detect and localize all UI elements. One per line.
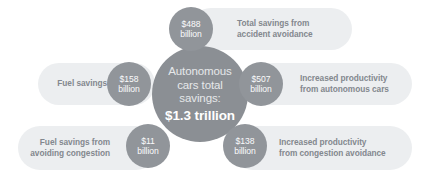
- node-amount-fuel-savings: $158: [120, 74, 139, 84]
- node-amount-congestion-productivity: $138: [236, 136, 255, 146]
- node-fuel-savings: $158 billion: [107, 62, 151, 106]
- autonomous-cars-savings-infographic: Total savings from accident avoidance $4…: [0, 0, 421, 185]
- node-amount-autonomous-productivity: $507: [252, 74, 271, 84]
- node-unit-autonomous-productivity: billion: [250, 84, 272, 94]
- node-accident-avoidance: $488 billion: [169, 7, 213, 51]
- label-congestion-fuel-savings: Fuel savings from avoiding congestion: [30, 137, 110, 159]
- hub-total-value: $1.3 trillion: [165, 108, 235, 123]
- node-unit-congestion-productivity: billion: [234, 146, 256, 156]
- label-autonomous-productivity: Increased productivity from autonomous c…: [300, 73, 389, 95]
- node-amount-accident-avoidance: $488: [182, 19, 201, 29]
- label-fuel-savings: Fuel savings: [57, 78, 107, 89]
- node-amount-congestion-fuel-savings: $11: [141, 136, 155, 146]
- node-congestion-fuel-savings: $11 billion: [126, 124, 170, 168]
- node-congestion-productivity: $138 billion: [223, 124, 267, 168]
- label-accident-avoidance: Total savings from accident avoidance: [237, 18, 313, 40]
- node-autonomous-productivity: $507 billion: [239, 62, 283, 106]
- pill-accident-avoidance: Total savings from accident avoidance: [190, 8, 352, 50]
- node-unit-accident-avoidance: billion: [180, 29, 202, 39]
- node-unit-congestion-fuel-savings: billion: [137, 146, 159, 156]
- node-unit-fuel-savings: billion: [118, 84, 140, 94]
- label-congestion-productivity: Increased productivity from congestion a…: [279, 137, 386, 159]
- hub-label: Autonomous cars total savings:: [168, 65, 232, 106]
